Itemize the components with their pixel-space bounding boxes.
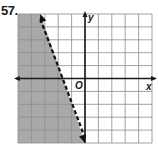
x-axis-label: x [145, 81, 152, 92]
origin-label: O [75, 80, 83, 91]
coordinate-graph: x y O [0, 0, 158, 146]
y-axis-label: y [87, 12, 94, 23]
